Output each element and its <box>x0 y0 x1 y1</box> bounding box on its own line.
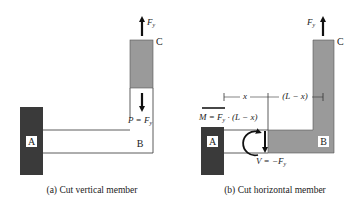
moment-arrow <box>243 131 259 155</box>
svg-text:V = −Fy: V = −Fy <box>256 156 286 167</box>
tip-label: C <box>156 36 163 47</box>
caption-b: (b) Cut horizontal member <box>224 185 326 196</box>
svg-text:(L − x): (L − x) <box>282 91 307 101</box>
svg-text:x: x <box>242 91 247 101</box>
wall-label: A <box>28 136 36 147</box>
svg-text:B: B <box>320 136 327 147</box>
panel-a: A B C Fy P = Fy (a) Cut vertical member <box>20 17 163 196</box>
svg-text:Fy: Fy <box>306 17 316 28</box>
member-c <box>130 40 153 88</box>
svg-text:C: C <box>337 36 344 47</box>
panel-b: A B C Fy x (L − x) M = Fy · (L − x) V = … <box>198 17 344 196</box>
caption-a: (a) Cut vertical member <box>46 185 138 196</box>
wall-a <box>201 127 224 175</box>
svg-text:A: A <box>209 136 217 147</box>
corner-label: B <box>137 138 144 149</box>
svg-text:Fy: Fy <box>146 17 156 28</box>
diagram-canvas: A B C Fy P = Fy (a) Cut vertical member … <box>0 0 361 206</box>
svg-text:M = Fy · (L − x): M = Fy · (L − x) <box>198 112 257 123</box>
svg-text:P = Fy: P = Fy <box>127 115 152 126</box>
